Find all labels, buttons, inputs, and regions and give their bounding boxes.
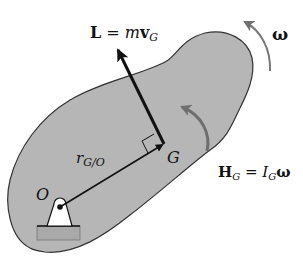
center-of-mass-label: G [167, 148, 180, 167]
rigid-body [8, 32, 253, 252]
rigid-body-diagram: L = mvG ω G rG/O O HG = IGω [0, 0, 303, 267]
pivot-label: O [36, 185, 49, 204]
angular-velocity-label: ω [272, 24, 288, 44]
ground-block [37, 226, 80, 240]
linear-momentum-label: L = mvG [90, 23, 158, 44]
angular-momentum-label: HG = IGω [218, 163, 291, 182]
